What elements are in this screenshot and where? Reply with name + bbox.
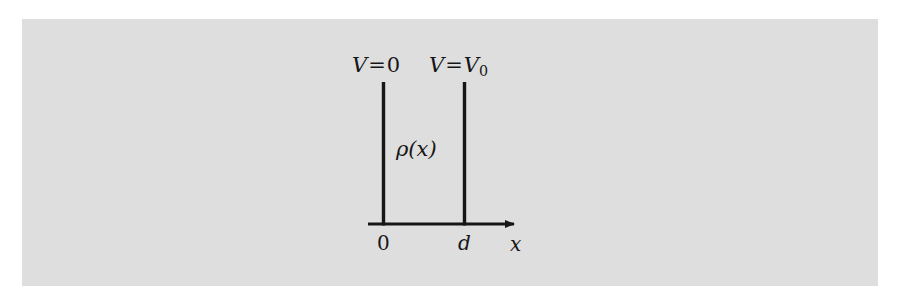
right-plate-potential-relation: = [444, 53, 464, 77]
origin-tick-label: 0 [377, 233, 390, 253]
charge-density-symbol: ρ [396, 137, 408, 161]
right-plate-potential-subscript: 0 [479, 63, 488, 79]
separation-tick-label: d [458, 233, 471, 253]
right-plate-potential-label: V=V0 [429, 55, 488, 78]
right-plate-potential-symbol: V [429, 53, 444, 77]
charge-density-label: ρ(x) [396, 139, 437, 160]
left-plate-potential-relation: = [367, 53, 387, 77]
left-plate-potential-value: 0 [387, 53, 400, 77]
x-axis-label: x [510, 234, 521, 254]
left-plate-potential-label: V=0 [352, 55, 400, 76]
charge-density-argument: (x) [408, 137, 436, 161]
figure-root: V=0 V=V0 ρ(x) 0 d x [0, 0, 902, 306]
diagram-canvas [0, 0, 902, 306]
left-plate-potential-symbol: V [352, 53, 367, 77]
right-plate-potential-value: V [464, 53, 479, 77]
